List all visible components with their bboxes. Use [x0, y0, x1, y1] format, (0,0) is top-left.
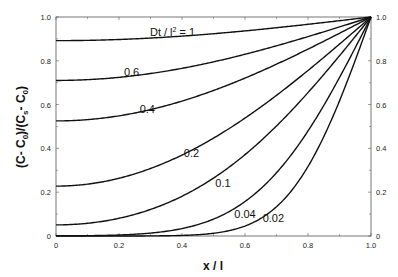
curve-0.04: [56, 17, 371, 236]
y-tick-label-right: 0.8: [376, 57, 386, 66]
x-tick-label: 0.8: [303, 241, 313, 250]
y-tick-label-left: 0.4: [41, 144, 51, 153]
y-tick-label-left: 1.0: [41, 13, 51, 22]
diffusion-profile-chart: 00.20.40.60.81.0000.20.20.40.40.60.60.80…: [0, 0, 398, 277]
x-tick-label: 0: [54, 241, 58, 250]
plot-border: [56, 17, 371, 236]
curve-label: 0.6: [124, 66, 139, 78]
y-tick-label-right: 0.2: [376, 188, 386, 197]
curve-label: 0.02: [263, 212, 284, 224]
x-tick-label: 1.0: [366, 241, 376, 250]
y-tick-label-left: 0.8: [41, 57, 51, 66]
curve-0.2: [56, 17, 371, 186]
curve-0.02: [56, 17, 371, 236]
curve-0.6: [56, 17, 371, 80]
y-tick-label-left: 0.2: [41, 188, 51, 197]
y-tick-label-left: 0: [47, 232, 51, 241]
curve-labels: Dt / l2 = 10.60.40.20.10.040.02: [124, 26, 284, 224]
curve-label: 0.2: [184, 147, 199, 159]
curve-label-top: Dt / l2 = 1: [150, 26, 195, 38]
curve-Dtl1: [56, 17, 371, 41]
y-axis-title: (C- C0)/(Cs- C0): [14, 86, 30, 168]
x-axis-title: x / l: [203, 259, 223, 273]
curve-label: 0.04: [234, 208, 255, 220]
curve-label: 0.4: [140, 103, 155, 115]
y-tick-label-right: 0.4: [376, 144, 386, 153]
x-tick-label: 0.6: [240, 241, 250, 250]
curve-0.1: [56, 17, 371, 225]
y-tick-label-right: 0.6: [376, 101, 386, 110]
x-tick-label: 0.4: [177, 241, 187, 250]
y-tick-label-right: 1.0: [376, 13, 386, 22]
x-tick-label: 0.2: [114, 241, 124, 250]
curve-label: 0.1: [215, 177, 230, 189]
y-tick-label-right: 0: [376, 232, 380, 241]
curves: [56, 17, 371, 236]
y-tick-label-left: 0.6: [41, 101, 51, 110]
svg-text:(C- C0)/(Cs- C0): (C- C0)/(Cs- C0): [14, 86, 30, 168]
